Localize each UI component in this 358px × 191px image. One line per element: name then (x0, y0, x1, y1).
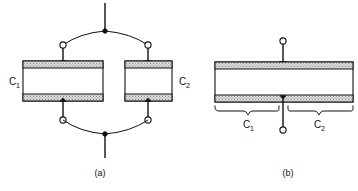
panel-a-top-left-terminal (60, 42, 66, 48)
panel-a-top-right-terminal (145, 42, 151, 48)
panel-b-bottom-terminal (280, 127, 286, 133)
capacitor-diagram: C 1 C 2 (a) (0, 0, 358, 191)
capacitor-c1-left-top-plate (23, 61, 103, 68)
figure-container: C 1 C 2 (a) (0, 0, 358, 191)
capacitor-c1-left (23, 61, 103, 101)
label-c1-left-subscript: 1 (16, 82, 20, 89)
panel-b-top-terminal (280, 38, 286, 44)
label-c2-right-subscript: 2 (186, 82, 190, 89)
label-c1-region-subscript: 1 (250, 125, 254, 132)
caption-panel-a: (a) (95, 168, 106, 178)
caption-panel-b: (b) (283, 168, 294, 178)
capacitor-c2-right (125, 61, 172, 101)
capacitor-c2-right-top-plate (125, 61, 172, 68)
label-c2-region-subscript: 2 (321, 125, 325, 132)
capacitor-equivalent-top-plate (215, 62, 353, 69)
